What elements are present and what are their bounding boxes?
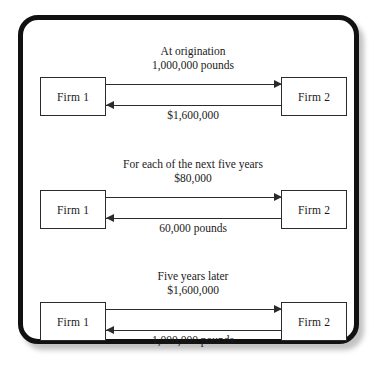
arrow-head-left-icon [106,101,114,109]
firm-box-right: Firm 2 [281,77,347,116]
arrow-backward-firm2-to-firm1 [106,105,281,106]
firm-box-left-label: Firm 1 [57,316,89,328]
arrow-head-left-icon [106,214,114,222]
arrow-forward-firm1-to-firm2 [106,197,281,198]
firm-box-left: Firm 1 [40,190,106,229]
diagram-frame: At origination 1,000,000 pounds Firm 1 F… [18,15,359,344]
group-heading: For each of the next five years [83,158,303,172]
transaction-group-each-of-next-five-years: For each of the next five years $80,000 … [23,153,364,253]
firm-box-right: Firm 2 [281,190,347,229]
backward-flow-amount: 1,000,000 pounds [83,334,303,348]
transaction-group-five-years-later: Five years later $1,600,000 Firm 1 Firm … [23,265,364,365]
arrow-head-left-icon [106,326,114,334]
arrow-backward-firm2-to-firm1 [106,218,281,219]
forward-flow-amount: 1,000,000 pounds [83,59,303,73]
caption-below-at-origination: $1,600,000 [83,109,303,123]
caption-below-each-of-next-five-years: 60,000 pounds [83,222,303,236]
firm-box-left-label: Firm 1 [57,204,89,216]
backward-flow-amount: 60,000 pounds [83,222,303,236]
caption-above-each-of-next-five-years: For each of the next five years $80,000 [83,158,303,185]
firm-box-left-label: Firm 1 [57,91,89,103]
forward-flow-amount: $80,000 [83,172,303,186]
arrow-forward-firm1-to-firm2 [106,309,281,310]
caption-above-five-years-later: Five years later $1,600,000 [83,270,303,297]
forward-flow-amount: $1,600,000 [83,284,303,298]
firm-box-left: Firm 1 [40,302,106,341]
firm-box-left: Firm 1 [40,77,106,116]
firm-box-right-label: Firm 2 [298,91,330,103]
transaction-group-at-origination: At origination 1,000,000 pounds Firm 1 F… [23,40,364,140]
caption-above-at-origination: At origination 1,000,000 pounds [83,45,303,72]
group-heading: Five years later [83,270,303,284]
group-heading: At origination [83,45,303,59]
firm-box-right: Firm 2 [281,302,347,341]
arrow-backward-firm2-to-firm1 [106,330,281,331]
firm-box-right-label: Firm 2 [298,204,330,216]
caption-below-five-years-later: 1,000,000 pounds [83,334,303,348]
backward-flow-amount: $1,600,000 [83,109,303,123]
arrow-forward-firm1-to-firm2 [106,84,281,85]
firm-box-right-label: Firm 2 [298,316,330,328]
